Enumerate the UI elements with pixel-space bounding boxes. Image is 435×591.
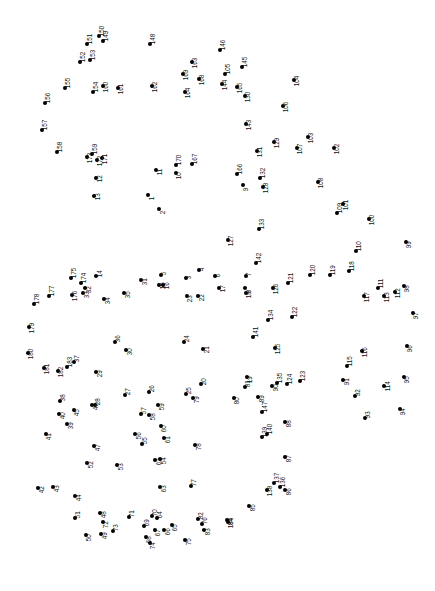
dot-label: 102 (334, 144, 340, 154)
dot-label: 44 (76, 494, 82, 501)
dot-label: 80 (234, 397, 240, 404)
dot-label: 20 (201, 378, 207, 385)
dot-label: 170 (176, 155, 182, 165)
dot-label: 6 (215, 274, 221, 277)
dot-label: 2 (160, 211, 166, 214)
dot-label: 126 (273, 284, 279, 294)
dot-label: 168 (199, 75, 205, 85)
dot-label: 133 (259, 219, 265, 229)
dot-label: 104 (294, 76, 300, 86)
dot-label: 160 (103, 82, 109, 92)
dot-label: 33 (84, 291, 90, 298)
dot-label: 40 (60, 412, 66, 419)
dot-label: 14 (97, 270, 103, 277)
dot-label: 172 (97, 156, 103, 166)
dot-label: 161 (118, 84, 124, 94)
dot-label: 29 (97, 370, 103, 377)
dot-label: 162 (152, 82, 158, 92)
dot-label: 146 (220, 40, 226, 50)
dot-label: 129 (274, 138, 280, 148)
dot-label: 69 (144, 519, 150, 526)
dot-label: 147 (262, 402, 268, 412)
dot-label: 113 (384, 292, 390, 302)
dot-label: 18 (246, 291, 252, 298)
dot-label: 26 (149, 385, 155, 392)
dot-label: 62 (156, 458, 162, 465)
dot-label: 166 (237, 164, 243, 174)
dot-label: 112 (395, 288, 401, 298)
dot-label: 87 (286, 455, 292, 462)
dot-label: 39 (68, 422, 74, 429)
dot-label: 59 (159, 403, 165, 410)
dot-label: 125 (275, 344, 281, 354)
dot-label: 132 (260, 168, 266, 178)
dot-label: 17 (220, 285, 226, 292)
dot-label: 150 (99, 26, 105, 36)
dot-label: 122 (292, 307, 298, 317)
dot-label: 151 (87, 34, 93, 44)
dot-label: 158 (57, 142, 63, 152)
dot-label: 60 (161, 425, 167, 432)
dot-label: 38 (60, 394, 66, 401)
dot-label: 96 (407, 345, 413, 352)
dot-label: 179 (29, 323, 35, 333)
dot-label: 142 (256, 253, 262, 263)
dot-label: 107 (297, 144, 303, 154)
dot-label: 63 (161, 485, 167, 492)
dot-label: 37 (74, 355, 80, 362)
dot-label: 43 (54, 485, 60, 492)
dot-label: 163 (192, 58, 198, 68)
dot-label: 16 (164, 282, 170, 289)
dot-label: 164 (185, 88, 191, 98)
dot-label: 145 (242, 57, 248, 67)
dot-label: 11 (157, 169, 163, 175)
dot-label: 115 (347, 356, 353, 366)
dot-label: 27 (125, 388, 131, 395)
dot-label: 97 (413, 312, 419, 319)
dot-label: 66 (165, 528, 171, 535)
puzzle-canvas: 1234567891011121314151617181920212223242… (0, 0, 435, 591)
dot-label: 95 (404, 376, 410, 383)
dot-label: 74 (150, 542, 156, 549)
dot-label: 134 (268, 310, 274, 320)
dot-label: 157 (42, 120, 48, 130)
dot-label: 51 (75, 511, 81, 518)
dot-label: 100 (369, 215, 375, 225)
dot-label: 72 (103, 521, 109, 528)
dot-label: 165 (237, 83, 243, 93)
dot-label: 120 (310, 265, 316, 275)
dot-label: 83 (205, 528, 211, 535)
dot-label: 130 (245, 92, 251, 102)
dot-label: 106 (283, 102, 289, 112)
dot-label: 111 (378, 279, 384, 288)
dot-label: 10 (176, 172, 182, 179)
dot-label: 53 (118, 463, 124, 470)
dot-label: 131 (257, 147, 263, 157)
dot-label: 79 (194, 396, 200, 403)
dot-label: 36 (115, 335, 121, 342)
dot-label: 61 (165, 436, 171, 443)
dot-label: 45 (74, 409, 80, 416)
dot-label: 116 (362, 347, 368, 357)
dot-label: 50 (86, 534, 92, 541)
dot-label: 118 (349, 261, 355, 271)
dot-label: 93 (365, 411, 371, 418)
dot-label: 52 (88, 461, 94, 468)
dot-label: 183 (67, 357, 73, 367)
dot-label: 71 (129, 510, 135, 517)
dot-label: 184 (228, 518, 234, 528)
dot-label: 21 (204, 346, 210, 353)
dot-label: 85 (250, 504, 256, 511)
dot-label: 1 (149, 197, 155, 200)
dot-label: 153 (90, 50, 96, 60)
dot-label: 86 (286, 488, 292, 495)
dot-label: 65 (172, 524, 178, 531)
dot-label: 91 (344, 378, 350, 385)
dot-label: 73 (113, 524, 119, 531)
dot-label: 24 (184, 335, 190, 342)
dot-label: 75 (186, 538, 192, 545)
dot-label: 101 (343, 200, 349, 210)
dot-label: 119 (330, 265, 336, 275)
dot-label: 94 (400, 408, 406, 415)
dot-label: 105 (225, 64, 231, 74)
